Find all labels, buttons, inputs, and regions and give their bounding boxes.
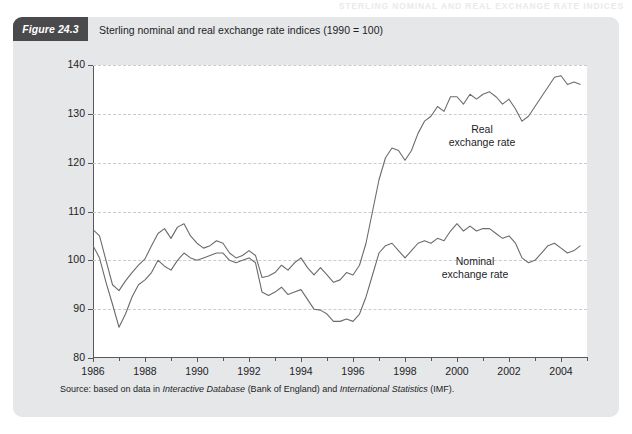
x-axis-tick-label: 2004 xyxy=(539,365,583,377)
annotation-nominal-series: Nominal exchange rate xyxy=(415,255,535,281)
x-axis-tick-label: 1986 xyxy=(71,365,115,377)
source-title-2: International Statistics xyxy=(340,384,428,394)
y-axis-tick-label: 140 xyxy=(51,58,85,70)
x-axis-tick-label: 1992 xyxy=(227,365,271,377)
figure-title: Sterling nominal and real exchange rate … xyxy=(99,21,383,39)
x-axis-tick-label: 1994 xyxy=(279,365,323,377)
figure-number-badge: Figure 24.3 xyxy=(13,17,88,41)
x-axis-tick-label: 1996 xyxy=(331,365,375,377)
figure-card: Figure 24.3 Sterling nominal and real ex… xyxy=(13,17,619,417)
annotation-real-line1: Real xyxy=(427,123,537,136)
source-title-1: Interactive Database xyxy=(163,384,246,394)
chart-plot: 8090100110120130140 19861988199019921994… xyxy=(93,65,587,358)
source-prefix: Source: based on data in xyxy=(60,384,163,394)
annotation-real-series: Real exchange rate xyxy=(427,123,537,149)
figure-source: Source: based on data in Interactive Dat… xyxy=(60,384,600,394)
y-axis-tick-label: 100 xyxy=(51,253,85,265)
source-suffix: (IMF). xyxy=(428,384,455,394)
series-lines xyxy=(93,65,587,358)
y-axis-tick-label: 90 xyxy=(51,302,85,314)
x-axis-tick-label: 1988 xyxy=(123,365,167,377)
x-axis-tick-label: 1998 xyxy=(383,365,427,377)
y-axis-tick-label: 130 xyxy=(51,107,85,119)
x-axis-tick xyxy=(587,357,588,361)
x-axis-tick-label: 2002 xyxy=(487,365,531,377)
y-axis-tick-label: 110 xyxy=(51,205,85,217)
x-axis-tick-label: 2000 xyxy=(435,365,479,377)
x-axis-tick-label: 1990 xyxy=(175,365,219,377)
annotation-nominal-line1: Nominal xyxy=(415,255,535,268)
figure-number-label: Figure 24.3 xyxy=(22,23,79,35)
running-header: STERLING NOMINAL AND REAL EXCHANGE RATE … xyxy=(338,1,624,12)
annotation-real-line2: exchange rate xyxy=(427,136,537,149)
figure-page: STERLING NOMINAL AND REAL EXCHANGE RATE … xyxy=(0,0,632,434)
source-middle: (Bank of England) and xyxy=(245,384,340,394)
y-axis-tick-label: 80 xyxy=(51,351,85,363)
y-axis-tick-label: 120 xyxy=(51,156,85,168)
annotation-nominal-line2: exchange rate xyxy=(415,268,535,281)
